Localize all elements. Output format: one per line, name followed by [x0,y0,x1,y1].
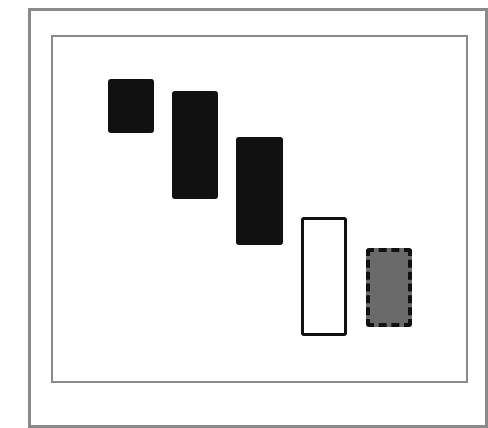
candle-3-filled-black [236,137,283,245]
candle-5-gray-dashed [366,248,412,327]
candle-1-filled-black [108,79,154,133]
candle-4-hollow-white [301,217,347,336]
candle-2-filled-black [172,91,218,199]
